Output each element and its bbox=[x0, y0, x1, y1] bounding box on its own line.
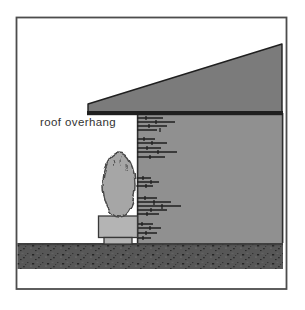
shrub-shape bbox=[103, 153, 135, 217]
roof-overhang-diagram: roof overhang bbox=[0, 0, 305, 310]
roof-shape bbox=[88, 44, 282, 112]
ground-strip bbox=[18, 243, 284, 269]
ground-top-edge bbox=[18, 243, 284, 245]
wall-shape bbox=[137, 113, 283, 243]
planter-shape bbox=[99, 216, 138, 238]
roof-eave-bar bbox=[87, 111, 283, 115]
diagram-canvas: roof overhang bbox=[0, 0, 305, 310]
shrub-body bbox=[103, 153, 135, 217]
roof-overhang-label: roof overhang bbox=[40, 116, 116, 128]
planter-base bbox=[104, 238, 132, 245]
